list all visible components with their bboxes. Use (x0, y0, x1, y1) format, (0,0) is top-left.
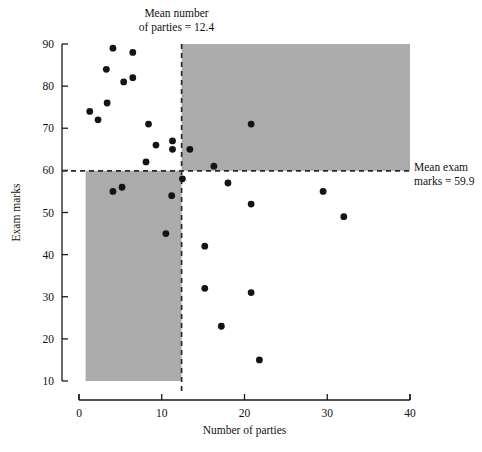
shaded-quadrant-top-right (182, 44, 410, 171)
shaded-quadrants (86, 44, 410, 381)
x-tick-label: 10 (156, 407, 168, 419)
mean-parties-line1: Mean number (84, 6, 269, 20)
y-tick-label: 20 (43, 333, 55, 345)
data-point (320, 188, 327, 195)
data-point (201, 243, 208, 250)
y-tick-label: 90 (43, 38, 55, 50)
y-axis-title: Exam marks (10, 183, 22, 241)
data-point (86, 108, 93, 115)
data-point (210, 163, 217, 170)
data-point (225, 180, 232, 187)
data-point (104, 100, 111, 107)
data-point (95, 116, 102, 123)
x-tick-label: 0 (76, 407, 82, 419)
data-point (169, 146, 176, 153)
data-point (169, 137, 176, 144)
mean-parties-line2: of parties = 12.4 (84, 20, 269, 34)
data-point (120, 79, 127, 86)
data-point (110, 45, 117, 52)
y-tick-label: 50 (43, 207, 55, 219)
data-point (248, 289, 255, 296)
data-point (186, 146, 193, 153)
data-point (162, 230, 169, 237)
y-tick-label: 60 (43, 164, 55, 176)
y-tick-label: 40 (43, 249, 55, 261)
data-point (248, 121, 255, 128)
data-point (218, 323, 225, 330)
scatter-plot-figure: 102030405060708090010203040 Number of pa… (0, 0, 482, 452)
x-tick-label: 30 (322, 407, 334, 419)
data-point (103, 66, 110, 73)
y-tick-label: 30 (43, 291, 55, 303)
data-point (119, 184, 126, 191)
data-point (201, 285, 208, 292)
x-tick-label: 40 (404, 407, 416, 419)
data-point (129, 74, 136, 81)
scatter-plot-canvas: 102030405060708090010203040 Number of pa… (0, 0, 482, 452)
x-tick-label: 20 (239, 407, 251, 419)
y-tick-label: 70 (43, 122, 55, 134)
mean-parties-annotation: Mean number of parties = 12.4 (84, 6, 269, 34)
data-point (340, 213, 347, 220)
data-point (110, 188, 117, 195)
shaded-quadrant-bottom-left (86, 171, 182, 381)
data-point (256, 357, 263, 364)
y-tick-label: 10 (43, 375, 55, 387)
data-point (248, 201, 255, 208)
data-point (179, 175, 186, 182)
mean-exam-line1: Mean exam (414, 160, 474, 174)
data-point (143, 159, 150, 166)
x-axis-title: Number of parties (203, 424, 287, 437)
data-point (129, 49, 136, 56)
data-point (168, 192, 175, 199)
y-tick-label: 80 (43, 80, 55, 92)
mean-exam-annotation: Mean exam marks = 59.9 (414, 160, 474, 188)
data-point (153, 142, 160, 149)
mean-exam-line2: marks = 59.9 (414, 174, 474, 188)
data-point (145, 121, 152, 128)
